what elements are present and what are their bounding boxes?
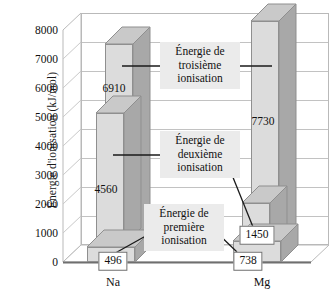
y-tick-label-1000: 1000 — [35, 227, 58, 239]
value-label-mg-first: 738 — [233, 252, 262, 271]
category-label-na: Na — [106, 275, 120, 290]
annotation-third-line2: troisième — [166, 59, 234, 73]
value-label-na-second: 4560 — [95, 184, 118, 196]
annotation-third-line3: ionisation — [166, 72, 234, 86]
bar-mg-first-ionisation[interactable] — [233, 13, 281, 262]
category-label-mg: Mg — [254, 275, 271, 290]
annotation-first-ionisation: Énergie de première ionisation — [144, 204, 224, 251]
y-tick-label-5000: 5000 — [35, 111, 58, 123]
value-label-na-first: 496 — [98, 252, 127, 271]
ionization-energy-chart: Énergie d'ionisation (kJ/mol) 8000 7000 … — [0, 0, 329, 300]
annotation-second-line2: deuxième — [166, 148, 234, 162]
annotation-second-line3: ionisation — [166, 161, 234, 175]
y-axis-tick-labels: 8000 7000 6000 5000 4000 3000 2000 1000 … — [0, 0, 58, 266]
y-tick-label-3000: 3000 — [35, 169, 58, 181]
y-tick-label-0: 0 — [52, 256, 58, 268]
annotation-third-line1: Énergie de — [166, 45, 234, 59]
annotation-first-line1: Énergie de — [150, 207, 218, 221]
annotation-first-line3: ionisation — [150, 234, 218, 248]
y-tick-label-6000: 6000 — [35, 82, 58, 94]
y-tick-label-4000: 4000 — [35, 140, 58, 152]
value-label-mg-second: 1450 — [240, 226, 275, 245]
value-label-mg-third: 7730 — [252, 116, 275, 128]
y-tick-label-8000: 8000 — [35, 24, 58, 36]
y-tick-label-2000: 2000 — [35, 198, 58, 210]
annotation-third-ionisation: Énergie de troisième ionisation — [160, 42, 240, 89]
bar-na-first-ionisation[interactable] — [87, 13, 135, 262]
y-tick-label-7000: 7000 — [35, 53, 58, 65]
value-label-na-third: 6910 — [103, 83, 126, 95]
annotation-first-line2: première — [150, 221, 218, 235]
annotation-second-ionisation: Énergie de deuxième ionisation — [160, 131, 240, 178]
annotation-second-line1: Énergie de — [166, 134, 234, 148]
